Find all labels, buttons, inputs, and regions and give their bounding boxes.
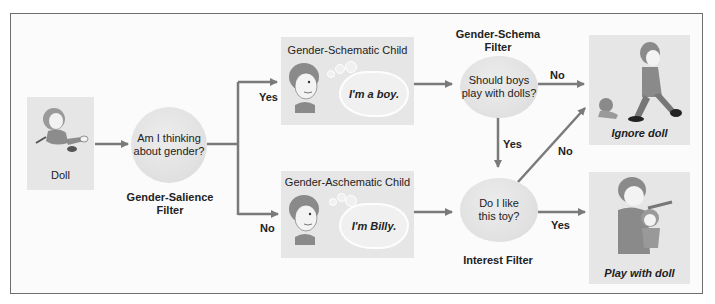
aschematic-child-title: Gender-Aschematic Child <box>281 176 414 188</box>
edge-label-salience-no: No <box>260 222 275 234</box>
thought-puff <box>329 198 337 206</box>
play-with-doll-label: Play with doll <box>589 267 690 279</box>
doll-box: Doll <box>27 97 94 190</box>
gender-salience-filter-node: Am I thinking about gender? <box>131 107 207 183</box>
interest-filter-node: Do I like this toy? <box>460 178 538 242</box>
salience-question-line1: Am I thinking <box>134 132 205 145</box>
edge-label-interest-yes: Yes <box>551 219 570 231</box>
interest-filter-caption: Interest Filter <box>448 254 548 266</box>
outcome-play-with-doll-box: Play with doll <box>589 172 690 284</box>
edge-label-schema-no: No <box>550 69 565 81</box>
schema-filter-caption: Gender-Schema Filter <box>448 28 548 54</box>
boy-walking-away-icon <box>592 39 688 125</box>
salience-filter-caption: Gender-Salience Filter <box>120 191 220 217</box>
schema-caption-line1: Gender-Schema <box>448 28 548 41</box>
salience-question-line2: about gender? <box>134 145 205 158</box>
boy-face-icon <box>287 193 321 245</box>
gender-schema-filter-node: Should boys play with dolls? <box>460 56 538 118</box>
edge-label-schema-yes: Yes <box>503 138 522 150</box>
doll-label: Doll <box>27 169 94 181</box>
schema-question-line2: play with dolls? <box>462 87 537 100</box>
salience-caption-line1: Gender-Salience <box>120 191 220 204</box>
thought-bubble-im-billy: I'm Billy. <box>339 203 409 249</box>
thought-bubble-im-a-boy: I'm a boy. <box>339 71 409 117</box>
ignore-doll-label: Ignore doll <box>589 127 690 139</box>
doll-icon <box>32 103 92 159</box>
edge-label-salience-yes: Yes <box>259 91 278 103</box>
gender-aschematic-child-box: Gender-Aschematic Child I'm Billy. <box>281 171 414 258</box>
thought-puff <box>327 70 335 78</box>
boy-holding-doll-icon <box>592 174 688 264</box>
interest-question-line1: Do I like <box>479 197 520 210</box>
gender-schematic-child-box: Gender-Schematic Child I'm a boy. <box>281 37 414 125</box>
outcome-ignore-doll-box: Ignore doll <box>589 35 690 145</box>
interest-question-line2: this toy? <box>479 210 520 223</box>
schema-caption-line2: Filter <box>448 41 548 54</box>
thought-puff <box>345 61 357 73</box>
edge-label-interest-no: No <box>558 145 573 157</box>
salience-caption-line2: Filter <box>120 204 220 217</box>
schema-question-line1: Should boys <box>462 74 537 87</box>
schematic-child-title: Gender-Schematic Child <box>281 44 414 56</box>
boy-face-icon <box>287 61 321 113</box>
thought-puff <box>335 64 345 74</box>
